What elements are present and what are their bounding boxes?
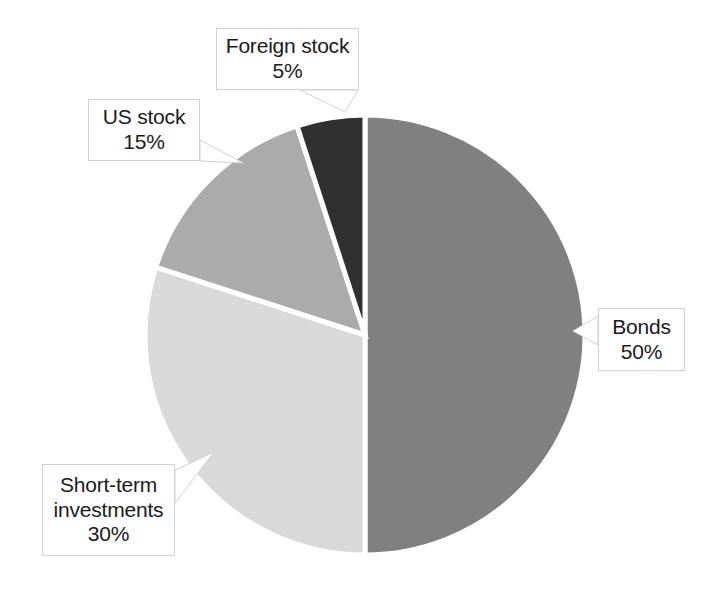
data-label-short-term-text-line2: investments xyxy=(54,498,164,523)
data-label-us-stock[interactable]: US stock 15% xyxy=(88,99,200,161)
data-label-bonds[interactable]: Bonds 50% xyxy=(598,308,685,371)
data-label-foreign-stock-value: 5% xyxy=(273,59,303,84)
data-label-short-term-value: 30% xyxy=(88,522,129,547)
data-label-short-term-investments[interactable]: Short-term investments 30% xyxy=(42,464,175,556)
data-label-short-term-text-line1: Short-term xyxy=(60,473,157,498)
data-label-foreign-stock-text: Foreign stock xyxy=(226,34,349,59)
pie-slice-bonds[interactable] xyxy=(365,115,585,555)
data-label-us-stock-value: 15% xyxy=(123,130,164,155)
data-label-foreign-stock[interactable]: Foreign stock 5% xyxy=(216,28,359,90)
pie-chart-figure: Foreign stock 5% US stock 15% Short-term… xyxy=(0,0,708,604)
data-label-bonds-value: 50% xyxy=(621,340,662,365)
data-label-us-stock-text: US stock xyxy=(103,105,185,130)
data-label-bonds-text: Bonds xyxy=(612,315,671,340)
pie-slices xyxy=(145,115,585,555)
